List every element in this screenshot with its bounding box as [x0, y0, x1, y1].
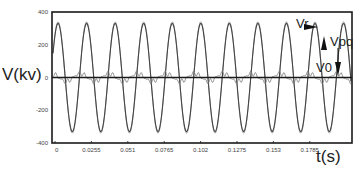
- x-tick-label: 0.102: [193, 147, 209, 153]
- y-tick-label: 0: [45, 75, 49, 81]
- y-tick-label: -400: [36, 140, 49, 146]
- x-tick-label: 0.051: [120, 147, 136, 153]
- y-tick-label: 200: [38, 42, 49, 48]
- y-tick-label: -200: [36, 107, 49, 113]
- x-tick-label: 0.1785: [301, 147, 320, 153]
- y-tick-label: 400: [38, 9, 49, 15]
- x-tick-label: 0.0255: [82, 147, 101, 153]
- arrow-vpq-up-icon: [321, 36, 327, 50]
- x-tick-label: 0: [55, 147, 59, 153]
- x-tick-label: 0.0765: [155, 147, 174, 153]
- voltage-chart: 4002000-200-400 00.02550.0510.07650.1020…: [0, 0, 360, 174]
- y-tick-labels: 4002000-200-400: [36, 9, 49, 146]
- annotation-vpq: Vpq: [330, 34, 353, 49]
- x-tick-label: 0.153: [266, 147, 282, 153]
- x-tick-label: 0.1275: [228, 147, 247, 153]
- annotation-v0: V0: [316, 60, 332, 75]
